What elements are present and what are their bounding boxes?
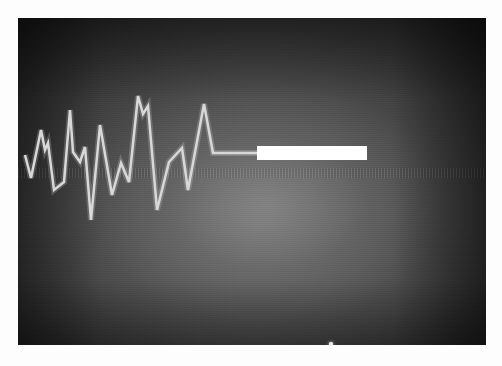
waveform-trace: [0, 0, 502, 366]
photo-page: [0, 0, 502, 366]
white-marker-bar: [257, 146, 367, 160]
bright-spot: [329, 342, 333, 346]
